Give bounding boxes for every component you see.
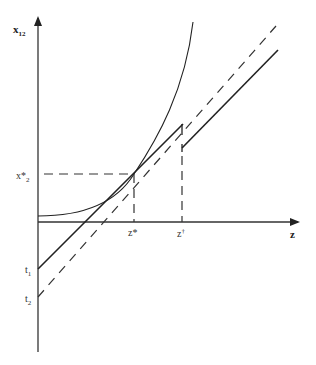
t2-label: t2 bbox=[25, 294, 31, 307]
t1-label: t1 bbox=[25, 265, 31, 278]
x-axis-label-text: z bbox=[290, 228, 295, 240]
z-dagger-sup: † bbox=[181, 227, 185, 235]
y-axis-label-sub: 12 bbox=[19, 30, 26, 38]
z-star-label: z* bbox=[128, 228, 137, 238]
upper-solid-segment bbox=[182, 50, 278, 148]
tangent-line bbox=[38, 124, 183, 269]
y-axis-label: x12 bbox=[13, 24, 26, 38]
z-star-text: z* bbox=[128, 227, 137, 238]
z-dagger-label: z† bbox=[177, 228, 185, 239]
t1-sub: 1 bbox=[28, 270, 32, 278]
x-axis-label: z bbox=[290, 229, 295, 240]
t2-sub: 2 bbox=[28, 299, 32, 307]
x-star-base: x* bbox=[16, 170, 26, 181]
convex-curve bbox=[38, 22, 193, 216]
shifted-dashed-line bbox=[38, 26, 276, 297]
x-star-label: x*2 bbox=[16, 171, 30, 184]
diagram-canvas bbox=[0, 0, 316, 365]
x-star-sub: 2 bbox=[26, 176, 30, 184]
